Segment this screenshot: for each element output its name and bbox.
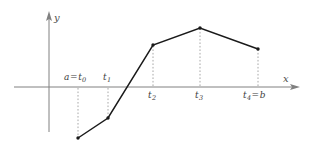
curve-vertices — [76, 26, 259, 139]
vertex-t1 — [106, 116, 109, 119]
tick-label-t4-suffix: b — [260, 90, 266, 100]
tick-label-t4: t4=b — [243, 91, 266, 100]
vertex-t0 — [76, 136, 79, 139]
vertex-t3 — [198, 26, 201, 29]
tick-label-t1: t1 — [103, 73, 111, 82]
piecewise-function-figure: y x a=t0 t1 t2 t3 t4=b — [0, 0, 315, 155]
tick-label-t0-sub: 0 — [82, 76, 86, 84]
tick-label-t2: t2 — [148, 91, 156, 100]
tick-label-t0-eq: = — [69, 72, 78, 82]
tick-label-t4-eq: = — [251, 90, 260, 100]
tick-label-t3-sub: 3 — [199, 94, 203, 102]
tick-label-t0: a=t0 — [64, 73, 86, 82]
vertex-t2 — [151, 43, 154, 46]
piecewise-curve — [78, 28, 258, 138]
x-axis-label: x — [283, 73, 289, 84]
tick-label-t4-sub: 4 — [247, 94, 251, 102]
y-axis — [46, 11, 52, 132]
vertex-t4 — [256, 47, 259, 50]
y-axis-label: y — [53, 12, 60, 23]
tick-label-t2-sub: 2 — [152, 94, 156, 102]
tick-label-t3: t3 — [195, 91, 203, 100]
tick-label-t1-sub: 1 — [107, 76, 111, 84]
figure-canvas: y x — [0, 0, 315, 155]
